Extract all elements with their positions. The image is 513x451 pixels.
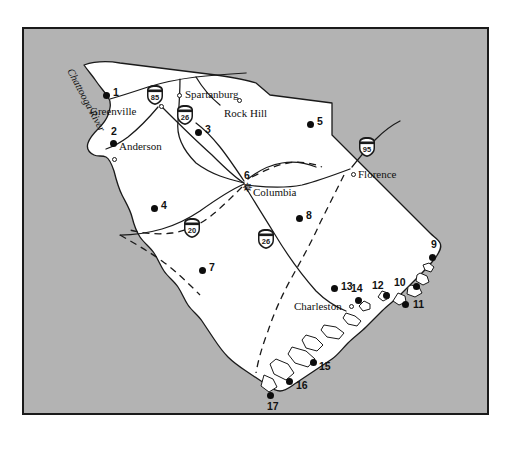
map-figure: Chattooga River Greenville Spartanburg R… xyxy=(22,27,489,415)
city-marker-charleston xyxy=(349,304,354,309)
site-label-11: 11 xyxy=(413,299,424,310)
city-marker-rock-hill xyxy=(237,98,242,103)
site-dot-11 xyxy=(402,301,409,308)
site-dot-16 xyxy=(286,378,293,385)
site-label-8: 8 xyxy=(306,210,312,221)
city-label-spartanburg: Spartanburg xyxy=(185,89,239,100)
city-label-columbia: Columbia xyxy=(253,187,296,198)
capital-marker-columbia: ✵ xyxy=(242,181,253,194)
interstate-shield-85: 85 xyxy=(146,85,164,105)
site-label-3: 3 xyxy=(205,124,211,135)
city-label-rock-hill: Rock Hill xyxy=(224,108,267,119)
interstate-shield-20: 20 xyxy=(183,218,201,238)
site-label-14: 14 xyxy=(351,283,363,294)
site-dot-17 xyxy=(267,392,274,399)
interstate-shield-26-upstate: 26 xyxy=(176,105,194,125)
site-dot-10 xyxy=(413,283,420,290)
city-marker-anderson xyxy=(112,157,117,162)
site-dot-8 xyxy=(296,215,303,222)
svg-text:95: 95 xyxy=(363,145,371,154)
svg-text:20: 20 xyxy=(188,226,196,235)
svg-text:85: 85 xyxy=(151,93,159,102)
city-label-charleston: Charleston xyxy=(294,301,342,312)
city-marker-spartanburg xyxy=(177,93,182,98)
site-dot-7 xyxy=(199,267,206,274)
site-label-15: 15 xyxy=(319,361,331,372)
site-dot-5 xyxy=(307,121,314,128)
city-label-florence: Florence xyxy=(358,169,396,180)
site-dot-13 xyxy=(331,285,338,292)
site-label-4: 4 xyxy=(161,200,167,211)
site-label-6: 6 xyxy=(244,170,250,181)
site-dot-12 xyxy=(383,292,390,299)
svg-text:26: 26 xyxy=(181,113,189,122)
site-dot-14 xyxy=(355,297,362,304)
site-dot-2 xyxy=(110,140,117,147)
site-label-5: 5 xyxy=(317,116,323,127)
interstate-shield-26-midlands: 26 xyxy=(257,229,275,249)
site-label-9: 9 xyxy=(431,239,437,250)
site-dot-3 xyxy=(195,129,202,136)
site-label-1: 1 xyxy=(113,87,119,98)
site-label-7: 7 xyxy=(209,262,215,273)
site-dot-1 xyxy=(103,92,110,99)
site-label-10: 10 xyxy=(394,277,406,288)
city-label-anderson: Anderson xyxy=(119,141,162,152)
interstate-shield-95: 95 xyxy=(358,137,376,157)
site-dot-9 xyxy=(429,254,436,261)
city-marker-florence xyxy=(351,172,356,177)
site-label-17: 17 xyxy=(267,401,279,412)
site-label-2: 2 xyxy=(111,126,117,137)
site-label-12: 12 xyxy=(372,280,384,291)
site-dot-4 xyxy=(151,205,158,212)
site-label-16: 16 xyxy=(296,380,308,391)
svg-text:26: 26 xyxy=(262,237,270,246)
map-graphic xyxy=(24,29,487,413)
city-label-greenville: Greenville xyxy=(90,106,136,117)
site-dot-15 xyxy=(310,359,317,366)
